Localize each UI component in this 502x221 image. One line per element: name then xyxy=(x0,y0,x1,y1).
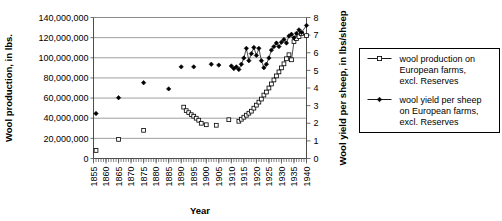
data-point-filled-diamond xyxy=(217,63,221,67)
legend-label-line: wool yield per sheep xyxy=(399,95,482,105)
data-point-open-square xyxy=(265,90,269,94)
y2-tick-label: 5 xyxy=(314,66,319,76)
data-point-filled-diamond xyxy=(304,23,308,27)
x-tick-label: 1920 xyxy=(252,167,262,187)
data-point-filled-diamond xyxy=(264,62,268,66)
x-tick-label: 1895 xyxy=(189,167,199,187)
y-tick-label: 140,000,000 xyxy=(38,13,88,23)
data-point-open-square xyxy=(272,78,276,82)
data-point-filled-diamond xyxy=(179,65,183,69)
chart-legend: wool production onEuropean farms,excl. R… xyxy=(360,49,500,133)
x-tick-label: 1910 xyxy=(227,167,237,187)
data-point-filled-diamond xyxy=(116,95,120,99)
data-series-layer xyxy=(94,23,309,152)
data-point-open-square xyxy=(377,56,381,60)
data-point-open-square xyxy=(282,62,286,66)
x-axis-minor-ticks xyxy=(94,159,307,163)
y-tick-label: 60,000,000 xyxy=(43,93,88,103)
data-point-open-square xyxy=(227,118,231,122)
y-axis-title: Wool production, in lbs. xyxy=(3,34,14,142)
data-point-filled-diamond xyxy=(259,58,263,62)
y2-tick-label: 0 xyxy=(314,154,319,164)
data-point-filled-diamond xyxy=(141,81,145,85)
y2-axis-tick-labels: 012345678 xyxy=(314,13,319,164)
data-point-open-square xyxy=(94,149,98,153)
x-tick-label: 1940 xyxy=(302,167,312,187)
x-tick-label: 1885 xyxy=(164,167,174,187)
x-axis-title: Year xyxy=(190,205,210,216)
data-point-filled-diamond xyxy=(262,66,266,70)
x-tick-label: 1935 xyxy=(289,167,299,187)
x-tick-label: 1915 xyxy=(239,167,249,187)
y-tick-label: 120,000,000 xyxy=(38,33,88,43)
y2-axis-ticks xyxy=(307,18,311,159)
y2-tick-label: 4 xyxy=(314,83,319,93)
x-tick-label: 1855 xyxy=(89,167,99,187)
data-point-filled-diamond xyxy=(274,41,278,45)
x-axis-major-ticks xyxy=(94,159,307,164)
legend-label-line: excl. Reserves xyxy=(400,117,460,127)
data-point-open-square xyxy=(259,97,263,101)
data-point-filled-diamond xyxy=(239,62,243,66)
y2-axis-title: Wool yield per sheep, in lbs/sheep xyxy=(337,10,348,165)
wool-production-chart: 020,000,00040,000,00060,000,00080,000,00… xyxy=(0,0,502,221)
x-tick-label: 1880 xyxy=(151,167,161,187)
y-tick-label: 80,000,000 xyxy=(43,73,88,83)
data-point-filled-diamond xyxy=(277,44,281,48)
data-point-open-square xyxy=(142,128,146,132)
x-axis-tick-labels: 1855186018651870187518801885189018951900… xyxy=(89,167,312,187)
data-point-filled-diamond xyxy=(247,58,251,62)
data-point-open-square xyxy=(285,57,289,61)
data-point-open-square xyxy=(270,82,274,86)
data-point-filled-diamond xyxy=(192,65,196,69)
y-tick-label: 40,000,000 xyxy=(43,113,88,123)
x-tick-label: 1890 xyxy=(176,167,186,187)
data-point-open-square xyxy=(117,137,121,141)
data-point-filled-diamond xyxy=(267,56,271,60)
x-tick-label: 1930 xyxy=(277,167,287,187)
data-point-open-square xyxy=(275,74,279,78)
chart-canvas: 020,000,00040,000,00060,000,00080,000,00… xyxy=(0,0,502,221)
data-point-filled-diamond xyxy=(94,111,98,115)
y-tick-label: 100,000,000 xyxy=(38,53,88,63)
data-point-open-square xyxy=(280,66,284,70)
plot-frame xyxy=(94,18,307,159)
x-tick-label: 1865 xyxy=(114,167,124,187)
data-point-filled-diamond xyxy=(166,87,170,91)
data-point-filled-diamond xyxy=(249,51,253,55)
y2-tick-label: 3 xyxy=(314,101,319,111)
y2-tick-label: 7 xyxy=(314,30,319,40)
y-tick-label: 20,000,000 xyxy=(43,134,88,144)
data-point-open-square xyxy=(287,53,291,57)
y2-tick-label: 6 xyxy=(314,48,319,58)
legend-label-line: European farms, xyxy=(400,65,467,75)
y-axis-tick-labels: 020,000,00040,000,00060,000,00080,000,00… xyxy=(38,13,88,164)
data-point-filled-diamond xyxy=(242,56,246,60)
data-point-open-square xyxy=(277,70,281,74)
data-point-filled-diamond xyxy=(252,45,256,49)
legend-label-line: on European farms, xyxy=(400,106,479,116)
x-tick-label: 1900 xyxy=(201,167,211,187)
data-point-filled-diamond xyxy=(209,62,213,66)
y-tick-label: 0 xyxy=(83,154,88,164)
data-point-open-square xyxy=(305,34,309,38)
data-point-open-square xyxy=(204,123,208,127)
series-2 xyxy=(94,23,309,116)
x-tick-label: 1860 xyxy=(101,167,111,187)
data-point-open-square xyxy=(267,86,271,90)
data-point-open-square xyxy=(290,58,294,62)
x-tick-label: 1905 xyxy=(214,167,224,187)
y2-tick-label: 8 xyxy=(314,13,319,23)
data-point-filled-diamond xyxy=(272,44,276,48)
x-tick-label: 1875 xyxy=(139,167,149,187)
series-1 xyxy=(94,32,308,153)
legend-label-line: excl. Reserves xyxy=(400,76,460,86)
data-point-filled-diamond xyxy=(269,48,273,52)
data-point-open-square xyxy=(199,121,203,125)
data-point-open-square xyxy=(214,123,218,127)
y2-tick-label: 2 xyxy=(314,118,319,128)
data-point-filled-diamond xyxy=(244,46,248,50)
data-point-filled-diamond xyxy=(284,41,288,45)
data-point-filled-diamond xyxy=(257,46,261,50)
legend-label-line: wool production on xyxy=(399,54,476,64)
